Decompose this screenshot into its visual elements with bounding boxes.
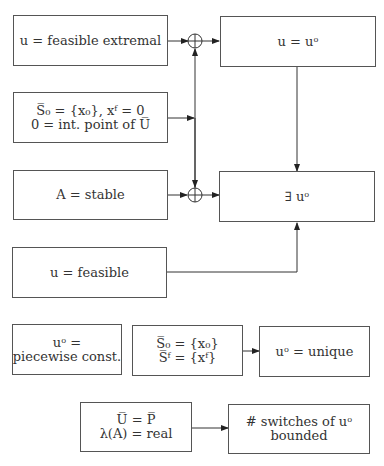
box-label-line2: 0 = int. point of U̅	[31, 118, 150, 132]
box-label-line1: U̅ = P̅	[117, 413, 156, 427]
box-label: uᵒ = unique	[276, 345, 354, 359]
box-label-line1: S̅₀ = {x₀}, xᶠ = 0	[36, 104, 144, 118]
box-switches-bounded: # switches of uᵒ bounded	[228, 404, 370, 454]
box-label: ∃ uᵒ	[285, 190, 310, 204]
box-u-equals-p: U̅ = P̅ λ(A) = real	[80, 402, 192, 452]
box-label-line1: # switches of uᵒ	[246, 415, 353, 429]
box-label-line2: λ(A) = real	[100, 427, 173, 441]
box-exists-uo: ∃ uᵒ	[219, 171, 375, 222]
box-s0-conditions: S̅₀ = {x₀}, xᶠ = 0 0 = int. point of U̅	[13, 92, 168, 143]
box-s0-sf: S̅₀ = {x₀} S̅ᶠ = {xᶠ}	[132, 325, 243, 376]
box-piecewise-const: uᵒ = piecewise const.	[12, 324, 122, 375]
box-label-line1: S̅₀ = {x₀}	[156, 337, 218, 351]
box-label-line2: bounded	[270, 429, 327, 443]
box-u-feasible: u = feasible	[12, 247, 167, 298]
box-label: u = uᵒ	[278, 35, 319, 49]
box-feasible-extremal: u = feasible extremal	[13, 15, 168, 66]
box-label-line2: piecewise const.	[13, 350, 121, 364]
box-label: A = stable	[56, 188, 124, 202]
box-a-stable: A = stable	[13, 170, 168, 220]
connector-lines	[0, 0, 384, 466]
summing-junction-top	[188, 34, 202, 48]
summing-junction-middle	[188, 188, 202, 202]
box-label: u = feasible extremal	[20, 34, 161, 48]
box-label: u = feasible	[50, 266, 129, 280]
box-uo-unique: uᵒ = unique	[259, 326, 370, 377]
box-label-line1: uᵒ =	[53, 336, 81, 350]
box-u-equals-uo: u = uᵒ	[220, 16, 376, 67]
box-label-line2: S̅ᶠ = {xᶠ}	[159, 351, 217, 365]
